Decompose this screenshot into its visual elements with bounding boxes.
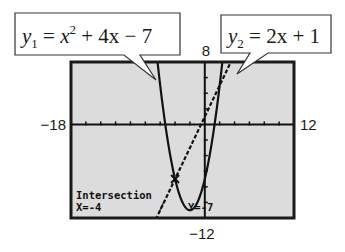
ymin-label: −12 [189,225,214,242]
lcd-separator: / [158,201,164,213]
lcd-intersection-label: Intersection [76,189,152,201]
lcd-x-value: X=-4 [76,201,101,213]
xmin-label: −18 [41,116,66,133]
ymax-label: 8 [202,42,210,59]
lcd-y-value: Y=-7 [188,201,213,213]
graph-figure: Intersection X=-4 / Y=-7 −18 12 8 −12 y1… [0,0,345,252]
callout-y1-equation: y1 = x2 + 4x − 7 [20,22,152,51]
xmax-label: 12 [300,116,317,133]
